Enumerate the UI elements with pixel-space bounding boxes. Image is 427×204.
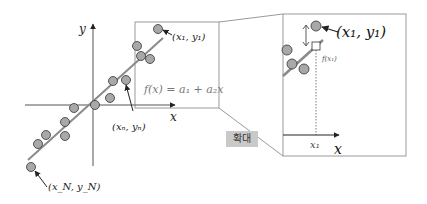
fitted-value-marker: [312, 42, 320, 50]
arrow-first-point: [163, 30, 172, 35]
nth-point-label: (xₙ, yₙ): [112, 121, 146, 132]
diagram-canvas: y x (x₁, y₁) (xₙ, yₙ) (x_N, y_N) f(x) = …: [0, 0, 427, 204]
zoom-badge: 확대: [226, 131, 258, 147]
first-point-label: (x₁, y₁): [172, 31, 206, 42]
zoom-point-label: (x₁, y₁): [336, 23, 386, 41]
function-label: f(x) = a₁ + a₂x: [143, 83, 224, 96]
fitted-value-label: f(x₁): [321, 55, 337, 63]
x1-tick-label: x₁: [310, 139, 320, 150]
zoom-x-axis-label: x: [334, 141, 342, 157]
arrow-last-point: [35, 171, 47, 187]
last-point-label: (x_N, y_N): [48, 181, 100, 193]
data-points: [27, 25, 163, 172]
projection-line-top: [219, 14, 283, 22]
arrow-nth-point: [126, 85, 133, 111]
x-axis-label: x: [170, 110, 177, 124]
y-axis-label: y: [78, 22, 86, 36]
